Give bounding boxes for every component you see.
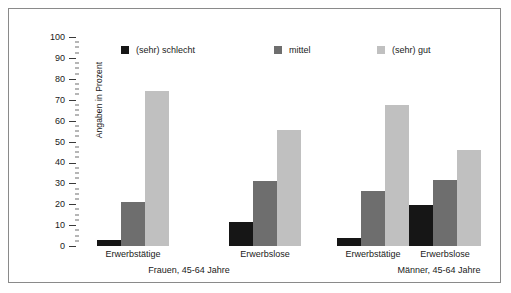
y-axis-minor-tick: [75, 89, 79, 90]
y-axis-tick-mark: [69, 100, 76, 101]
y-axis-tick-60: 60: [43, 116, 79, 126]
y-axis-tick-label: 100: [43, 32, 65, 42]
y-axis-tick-label: 0: [43, 241, 65, 251]
y-axis-tick-mark: [69, 58, 76, 59]
y-axis-tick-label: 30: [43, 178, 65, 188]
group-label: Männer, 45-64 Jahre: [379, 265, 499, 275]
y-axis-minor-tick: [75, 136, 79, 137]
y-axis-tick-100: 100: [43, 32, 79, 42]
bar: [277, 130, 301, 246]
y-axis-tick-mark: [69, 163, 76, 164]
y-axis-minor-tick: [75, 193, 79, 194]
bar: [385, 105, 409, 246]
y-axis-minor-tick: [75, 146, 79, 147]
y-axis-tick-label: 80: [43, 74, 65, 84]
y-axis-tick-30: 30: [43, 178, 79, 188]
bar: [433, 180, 457, 246]
y-axis-tick-0: 0: [43, 241, 79, 251]
y-axis-tick-mark: [69, 204, 76, 205]
group-label: Frauen, 45-64 Jahre: [129, 265, 249, 275]
y-axis-tick-mark: [69, 142, 76, 143]
category-label: Erwerbstätige: [333, 249, 413, 259]
y-axis-tick-label: 10: [43, 220, 65, 230]
y-axis-minor-tick: [75, 73, 79, 74]
y-axis-minor-tick: [75, 110, 79, 111]
y-axis-minor-tick: [75, 240, 79, 241]
bar: [361, 191, 385, 246]
y-axis-minor-tick: [75, 94, 79, 95]
bar: [229, 222, 253, 246]
y-axis-tick-label: 60: [43, 116, 65, 126]
y-axis-tick-mark: [69, 246, 76, 247]
y-axis-tick-40: 40: [43, 157, 79, 167]
y-axis-minor-tick: [75, 63, 79, 64]
y-axis-minor-tick: [75, 230, 79, 231]
y-axis-minor-tick: [75, 209, 79, 210]
bar: [337, 238, 361, 246]
y-axis-tick-70: 70: [43, 95, 79, 105]
category-label: Erwerbslose: [225, 249, 305, 259]
y-axis-tick-20: 20: [43, 199, 79, 209]
y-axis-tick-10: 10: [43, 220, 79, 230]
y-axis-tick-mark: [69, 37, 76, 38]
bar: [145, 91, 169, 246]
y-axis-minor-tick: [75, 172, 79, 173]
y-axis-minor-tick: [75, 131, 79, 132]
y-axis-minor-tick: [75, 52, 79, 53]
y-axis-minor-tick: [75, 157, 79, 158]
plot-area: 1009080706050403020100 ErwerbstätigeErwe…: [79, 37, 489, 246]
y-axis-minor-tick: [75, 219, 79, 220]
y-axis-minor-tick: [75, 151, 79, 152]
y-axis-tick-label: 20: [43, 199, 65, 209]
y-axis-tick-80: 80: [43, 74, 79, 84]
y-axis-tick-label: 90: [43, 53, 65, 63]
bar: [457, 150, 481, 246]
y-axis-tick-50: 50: [43, 137, 79, 147]
y-axis-tick-90: 90: [43, 53, 79, 63]
y-axis-minor-tick: [75, 198, 79, 199]
bar: [121, 202, 145, 246]
category-label: Erwerbslose: [405, 249, 485, 259]
y-axis-minor-tick: [75, 178, 79, 179]
y-axis-minor-tick: [75, 214, 79, 215]
y-axis-minor-tick: [75, 167, 79, 168]
y-axis-minor-tick: [75, 125, 79, 126]
y-axis-minor-tick: [75, 115, 79, 116]
category-label: Erwerbstätige: [93, 249, 173, 259]
y-axis-tick-label: 40: [43, 157, 65, 167]
y-axis-tick-mark: [69, 183, 76, 184]
bar: [409, 205, 433, 246]
y-axis-minor-tick: [75, 188, 79, 189]
y-axis-minor-tick: [75, 47, 79, 48]
y-axis-minor-tick: [75, 84, 79, 85]
y-axis-tick-label: 70: [43, 95, 65, 105]
y-axis-tick-mark: [69, 121, 76, 122]
bar: [253, 181, 277, 246]
y-axis-tick-mark: [69, 79, 76, 80]
bar: [97, 240, 121, 246]
y-axis-minor-tick: [75, 42, 79, 43]
y-axis-minor-tick: [75, 104, 79, 105]
y-axis-minor-tick: [75, 235, 79, 236]
y-axis-tick-label: 50: [43, 137, 65, 147]
chart-frame: Angaben in Prozent (sehr) schlecht mitte…: [8, 8, 501, 283]
y-axis-minor-tick: [75, 68, 79, 69]
y-axis-tick-mark: [69, 225, 76, 226]
